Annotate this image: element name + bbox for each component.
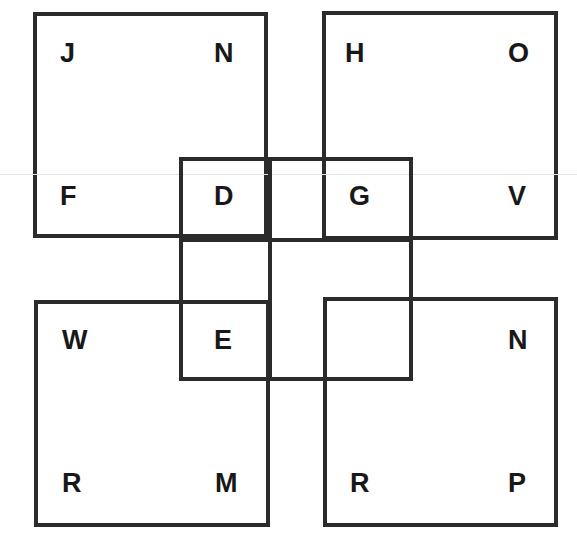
letter-n-bottom-right: N bbox=[508, 327, 528, 354]
letter-w: W bbox=[62, 327, 87, 354]
letter-h: H bbox=[345, 40, 365, 67]
letter-r-bottom-right: R bbox=[350, 470, 370, 497]
letter-e: E bbox=[214, 327, 232, 354]
letter-d: D bbox=[214, 183, 234, 210]
letter-r-bottom-left: R bbox=[62, 470, 82, 497]
letter-o: O bbox=[508, 40, 529, 67]
letter-m: M bbox=[215, 470, 238, 497]
letter-f: F bbox=[60, 183, 77, 210]
diagram-canvas: J N F H O V W R M N R P D G E bbox=[0, 0, 577, 543]
letter-g: G bbox=[349, 183, 370, 210]
letter-n-top-left: N bbox=[214, 40, 234, 67]
letter-p: P bbox=[508, 470, 526, 497]
letter-j: J bbox=[60, 40, 75, 67]
center-square-vertical-divider bbox=[268, 157, 272, 381]
center-square-horizontal-divider bbox=[179, 238, 413, 242]
letter-v: V bbox=[508, 183, 526, 210]
